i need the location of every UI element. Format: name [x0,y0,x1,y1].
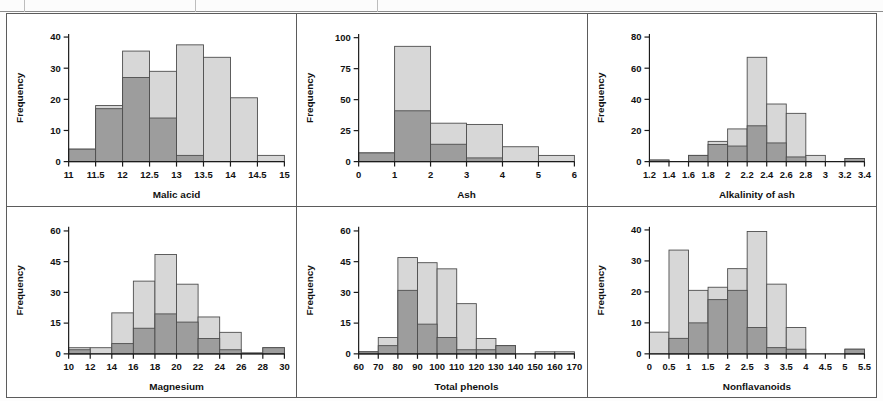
x-tick-label: 3 [464,169,469,180]
y-tick-label: 0 [346,348,351,359]
x-tick-label: 14 [225,169,236,180]
x-tick-label: 110 [449,361,464,372]
x-tick-label: 3.2 [838,169,851,180]
histogram-bar [503,147,539,162]
x-tick-label: 28 [258,361,269,372]
histogram-bar [69,349,91,353]
histogram-bar [398,290,418,354]
histogram-bar [747,126,767,162]
panel-magnesium: 0153045601012141618202224262830Magnesium… [6,206,296,399]
x-tick-label: 3.4 [858,169,872,180]
histogram-bar [220,349,242,353]
x-tick-label: 2.5 [740,361,753,372]
figure-page: 0102030401111.51212.51313.51414.515Malic… [0,0,883,401]
x-tick-label: 130 [488,361,504,372]
histogram-bar [177,45,204,162]
y-tick-label: 40 [50,31,60,42]
histogram-bar [805,155,825,161]
x-tick-label: 14.5 [248,169,266,180]
y-tick-label: 0 [346,156,351,167]
x-tick-label: 3 [822,169,827,180]
x-tick-label: 1.2 [643,169,656,180]
histogram-bar [133,328,155,354]
y-tick-label: 80 [631,31,641,42]
x-tick-label: 4 [803,361,809,372]
histogram-bar [845,349,865,354]
x-tick-label: 11.5 [87,169,105,180]
x-tick-label: 6 [572,169,577,180]
x-tick-label: 2.8 [799,169,812,180]
histogram-plot: 02550751000123456AshFrequency [297,14,586,206]
x-tick-label: 80 [393,361,404,372]
x-tick-label: 20 [171,361,182,372]
histogram-bar [457,303,477,353]
x-tick-label: 18 [150,361,161,372]
panel-nonflavanoids: 01020304000.511.522.533.544.555.5Nonflav… [587,206,877,399]
y-tick-label: 60 [50,225,61,236]
x-tick-label: 4.5 [818,361,831,372]
y-tick-label: 15 [50,317,61,328]
y-tick-label: 15 [341,317,352,328]
histogram-bar [90,347,112,353]
clipped-top-row [0,0,883,12]
y-tick-label: 45 [341,256,352,267]
y-tick-label: 20 [631,125,641,136]
x-tick-label: 4 [500,169,506,180]
y-tick-label: 30 [341,286,352,297]
histogram-bar [359,153,395,162]
histogram-bar [437,337,457,353]
y-axis-title: Frequency [304,264,315,315]
panel-ash: 02550751000123456AshFrequency [296,13,586,206]
x-tick-label: 22 [193,361,204,372]
histogram-bar [198,338,220,353]
histogram-bar [418,324,438,354]
histogram-bar [766,284,786,354]
histogram-bar [747,327,767,353]
histogram-grid: 0102030401111.51212.51313.51414.515Malic… [6,13,877,398]
y-axis-title: Frequency [595,264,606,315]
histogram-bar [786,349,806,354]
histogram-bar [230,98,257,162]
x-tick-label: 2 [725,361,730,372]
y-tick-label: 0 [55,156,60,167]
y-tick-label: 30 [631,255,641,266]
y-tick-label: 50 [341,94,351,105]
histogram-bar [766,347,786,353]
x-tick-label: 5 [842,361,847,372]
histogram-plot: 0204060801.21.41.61.822.22.42.62.833.23.… [588,14,876,206]
x-tick-label: 13 [171,169,181,180]
histogram-bar [496,345,516,353]
histogram-bar [766,143,786,162]
x-tick-label: 1 [686,361,691,372]
y-axis-title: Frequency [304,72,315,123]
y-tick-label: 0 [636,156,641,167]
y-tick-label: 75 [341,63,351,74]
y-tick-label: 10 [631,317,641,328]
histogram-bar [150,118,177,162]
x-tick-label: 16 [128,361,139,372]
histogram-bar [457,349,477,353]
x-tick-label: 1 [392,169,397,180]
x-tick-label: 5.5 [858,361,871,372]
x-tick-label: 0.5 [662,361,675,372]
x-tick-label: 1.8 [701,169,714,180]
x-tick-label: 60 [354,361,365,372]
histogram-bar [395,111,431,162]
histogram-bar [467,124,503,161]
histogram-plot: 0102030401111.51212.51313.51414.515Malic… [7,14,296,206]
panel-malic-acid: 0102030401111.51212.51313.51414.515Malic… [6,13,296,206]
histogram-bar [431,144,467,161]
y-tick-label: 25 [341,125,351,136]
y-tick-label: 20 [631,286,641,297]
y-tick-label: 30 [50,63,60,74]
panel-total-phenols: 0153045606070809010011012013014015016017… [296,206,586,399]
x-tick-label: 30 [279,361,290,372]
histogram-plot: 0153045606070809010011012013014015016017… [297,207,586,398]
x-axis-title: Nonflavanoids [722,380,791,391]
histogram-bar [155,313,177,353]
x-tick-label: 26 [236,361,247,372]
histogram-bar [708,144,728,161]
x-tick-label: 90 [413,361,424,372]
x-axis-title: Magnesium [149,380,204,391]
x-tick-label: 2.2 [740,169,753,180]
